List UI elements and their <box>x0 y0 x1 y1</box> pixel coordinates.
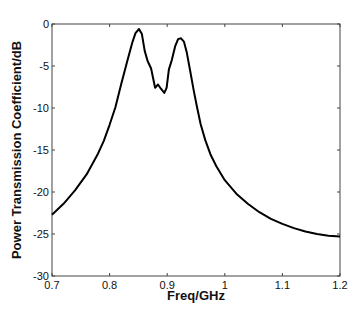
y-tick-label: 0 <box>43 18 49 30</box>
x-tick-label: 0.8 <box>102 279 117 291</box>
y-tick-label: -15 <box>33 144 49 156</box>
chart: 0.70.80.911.11.2 0-5-10-15-20-25-30 Freq… <box>0 0 364 314</box>
y-tick-label: -5 <box>39 60 49 72</box>
y-tick-label: -30 <box>33 270 49 282</box>
x-tick-label: 1.1 <box>275 279 290 291</box>
axes-frame <box>52 24 340 276</box>
plot-area: 0.70.80.911.11.2 0-5-10-15-20-25-30 <box>33 18 348 291</box>
x-axis-label: Freq/GHz <box>167 288 225 303</box>
y-axis-label: Power Transmission Coefficient/dB <box>9 41 24 259</box>
y-tick-label: -20 <box>33 186 49 198</box>
x-tick-label: 1.2 <box>332 279 347 291</box>
y-tick-label: -10 <box>33 102 49 114</box>
y-tick-label: -25 <box>33 228 49 240</box>
